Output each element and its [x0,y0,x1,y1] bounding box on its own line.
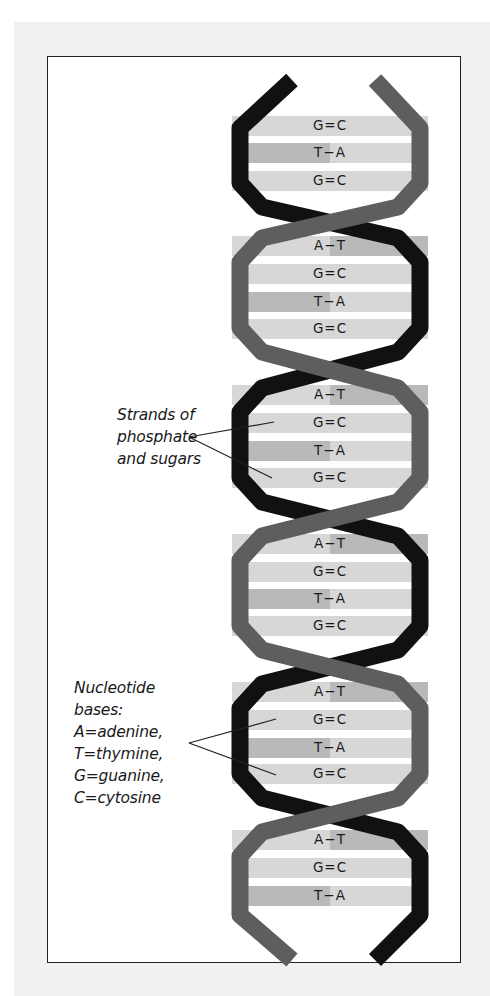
base-pair-label: G=C [290,172,370,188]
strands-annotation-line: phosphate [117,426,201,448]
base-pair-label: T−A [290,590,370,606]
base-pair-label: A−T [290,831,370,847]
base-pair-label: G=C [290,117,370,133]
base-pair-label: T−A [290,442,370,458]
sugar-phosphate-strands [240,80,420,960]
base-pair-label: A−T [290,386,370,402]
base-pair-label: G=C [290,265,370,281]
bases-annotation-line: C=cytosine [74,787,165,809]
base-pair-label: A−T [290,237,370,253]
base-pair-label: A−T [290,535,370,551]
bases-annotation-line: Nucleotide [74,677,165,699]
base-pair-label: G=C [290,414,370,430]
dna-helix-diagram [0,0,490,996]
base-pair-label: G=C [290,765,370,781]
strands-annotation-line: Strands of [117,404,201,426]
base-pair-label: G=C [290,617,370,633]
bases-annotation-line: A=adenine, [74,721,165,743]
bases-annotation: Nucleotide bases: A=adenine, T=thymine, … [74,677,165,809]
base-pair-label: G=C [290,320,370,336]
base-pair-label: T−A [290,293,370,309]
strands-annotation-line: and sugars [117,448,201,470]
base-pair-label: G=C [290,469,370,485]
strands-annotation: Strands of phosphate and sugars [117,404,201,470]
base-pair-label: T−A [290,887,370,903]
bases-annotation-line: bases: [74,699,165,721]
base-pair-label: G=C [290,711,370,727]
base-pair-label: A−T [290,683,370,699]
base-pair-label: T−A [290,739,370,755]
bases-annotation-line: T=thymine, [74,743,165,765]
base-pair-label: G=C [290,859,370,875]
base-pair-label: T−A [290,144,370,160]
base-pair-label: G=C [290,563,370,579]
bases-annotation-line: G=guanine, [74,765,165,787]
